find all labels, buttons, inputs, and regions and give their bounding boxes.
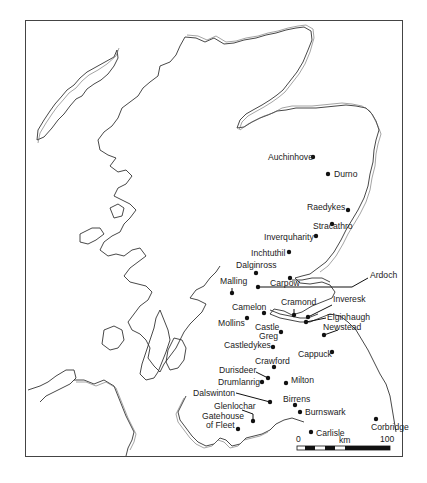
site-label: Camelon [232,302,267,312]
site-dot-icon [314,234,318,238]
site-label: Birrens [283,394,310,404]
site-marker: Dalginross [236,260,277,275]
site-label: Inverquharity [264,232,314,242]
site-marker: Corbridge [371,417,409,432]
site-marker: Raedykes [307,202,350,212]
site-marker: Stracathro [313,221,353,231]
site-dot-icon [346,208,350,212]
site-dot-icon [284,381,288,385]
site-label: Inchtuthil [251,248,285,258]
site-label: Malling [220,276,247,286]
scale-start-label: 0 [296,434,301,444]
site-label: Castledykes [224,340,271,350]
site-marker: Camelon [232,302,267,315]
site-label: Cappuck [298,349,333,359]
site-label: of Fleet [206,420,235,430]
site-label: Durno [334,169,358,179]
site-label: Raedykes [307,202,345,212]
scale-end-label: 100 [380,434,395,444]
site-dot-icon [298,410,302,414]
site-label: Dalswinton [193,388,235,398]
site-label: Auchinhove [268,152,313,162]
site-dot-icon [374,417,378,421]
site-dot-icon [279,330,283,334]
site-marker: Cappuck [298,349,334,359]
site-marker: Durno [326,169,358,179]
site-label: Durisdeer [219,365,256,375]
map-canvas: AuchinhoveDurnoRaedykesStracathroInverqu… [0,0,427,483]
site-marker: Drumlanrig [218,377,264,387]
site-marker: CastleGreg [255,322,283,341]
site-marker: Newstead [322,322,362,337]
site-marker: Inchtuthil [251,248,291,258]
site-marker: Carpow [270,276,300,288]
site-marker: Mollins [218,316,249,328]
site-dot-icon [326,172,330,176]
site-label: Corbridge [371,422,409,432]
site-label: Milton [291,375,314,385]
site-label: Stracathro [313,221,353,231]
site-label: Elginhaugh [327,312,370,322]
site-marker: Inverquharity [264,232,318,242]
site-label: Dalginross [236,260,277,270]
site-marker: Birrens [283,394,310,407]
site-marker: Malling [220,276,247,295]
site-marker: Auchinhove [268,152,315,162]
site-dot-icon [236,427,240,431]
site-label: Mollins [218,318,245,328]
site-marker: Crawford [255,356,290,369]
site-marker: Burnswark [298,407,346,417]
site-dot-icon [254,271,258,275]
sites-layer: AuchinhoveDurnoRaedykesStracathroInverqu… [193,152,409,438]
site-dot-icon [271,345,275,349]
site-dot-icon [260,380,264,384]
site-label: Drumlanrig [218,377,260,387]
site-dot-icon [245,316,249,320]
site-label: Crawford [255,356,290,366]
site-label: Cramond [281,297,317,307]
site-label: Inveresk [333,294,366,304]
site-marker: Cramond [281,297,317,317]
site-label: Glenlochar [214,401,256,411]
site-label: Newstead [323,322,361,332]
site-label: Burnswark [305,407,346,417]
scale-unit-label: km [339,435,350,445]
site-marker: Gatehouseof Fleet [202,411,244,431]
site-marker: Castledykes [224,340,275,350]
site-label: Ardoch [370,270,397,280]
scale-bar: 0 km 100 [296,434,395,450]
site-marker: Milton [284,375,314,385]
site-dot-icon [287,250,291,254]
site-dot-icon [309,430,313,434]
